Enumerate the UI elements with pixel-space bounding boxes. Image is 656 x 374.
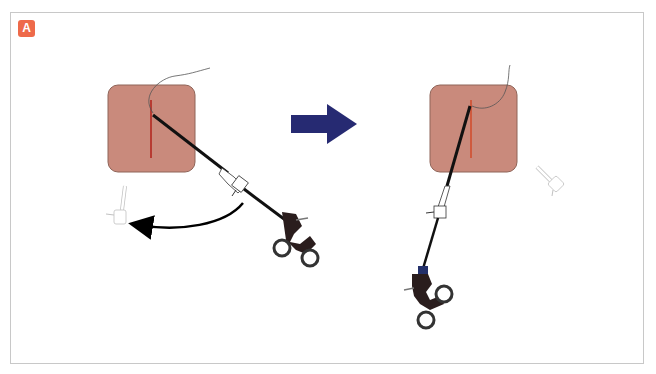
ghost-instrument-before — [106, 186, 126, 224]
ghost-instrument-after — [537, 167, 564, 196]
diagram-canvas — [0, 0, 656, 374]
handle-before — [274, 212, 318, 266]
scene-after — [404, 65, 564, 328]
transition-arrow-right — [291, 104, 357, 144]
tissue-pad-after — [430, 85, 517, 172]
rotation-arrow — [138, 203, 243, 228]
scene-before — [106, 68, 318, 266]
handle-after — [404, 266, 452, 328]
